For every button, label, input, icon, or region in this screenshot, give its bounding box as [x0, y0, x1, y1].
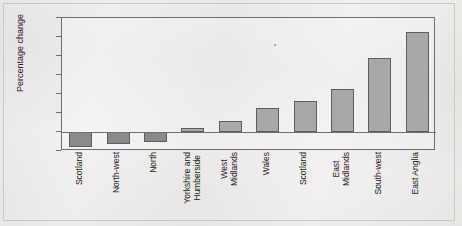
x-axis-label: Wales: [262, 152, 272, 175]
bar: [331, 89, 354, 132]
x-axis-label: Yorkshire andHumberside: [182, 152, 201, 204]
scan-speck-artifact: [274, 44, 276, 46]
chart-screenshot: Percentage change 121086420-2 ScotlandNo…: [0, 0, 462, 226]
x-axis-label-slot: North: [136, 152, 173, 224]
x-axis-label-slot: WestMidlands: [211, 152, 248, 224]
x-axis-label: South-west: [374, 152, 384, 195]
zero-baseline: [62, 132, 436, 133]
bar: [144, 132, 167, 142]
x-axis-label-slot: EastMidlands: [323, 152, 360, 224]
x-axis-label-slot: Wales: [248, 152, 285, 224]
x-axis-label-slot: East Anglia: [398, 152, 435, 224]
x-axis-labels: ScotlandNorth-westNorthYorkshire andHumb…: [61, 152, 435, 224]
bar: [294, 101, 317, 132]
bar: [406, 32, 429, 132]
bar: [107, 132, 130, 144]
x-axis-label: Scotland: [75, 152, 85, 185]
bar: [219, 121, 242, 132]
x-axis-label-slot: Yorkshire andHumberside: [173, 152, 210, 224]
y-axis-title: Percentage change: [15, 0, 25, 113]
x-axis-label: WestMidlands: [220, 152, 239, 186]
x-axis-label-slot: North-west: [98, 152, 135, 224]
x-axis-label: North: [150, 152, 160, 173]
x-axis-label: Scotland: [299, 152, 309, 185]
x-axis-label-slot: Scotland: [285, 152, 322, 224]
x-axis-label: East Anglia: [412, 152, 422, 195]
bar: [256, 108, 279, 132]
y-axis: Percentage change 121086420-2: [0, 0, 61, 170]
plot-area: [61, 17, 435, 150]
bar: [368, 58, 391, 132]
y-axis-tick-mark: [56, 150, 61, 151]
bar: [69, 132, 92, 147]
x-axis-label-slot: South-west: [360, 152, 397, 224]
x-axis-label-slot: Scotland: [61, 152, 98, 224]
x-axis-label: North-west: [112, 152, 122, 193]
x-axis-label: EastMidlands: [332, 152, 351, 186]
